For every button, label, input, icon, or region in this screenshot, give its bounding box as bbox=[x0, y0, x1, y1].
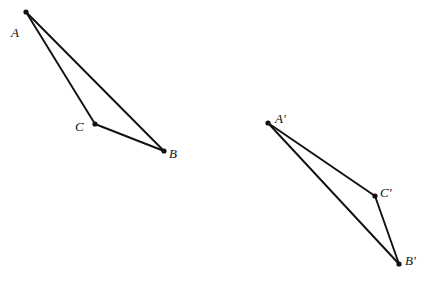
vertex-dot-a-prime bbox=[265, 120, 270, 125]
vertex-dot-b-prime bbox=[396, 261, 401, 266]
vertex-label-b: B bbox=[169, 147, 177, 160]
vertex-dots-layer bbox=[23, 9, 401, 266]
vertex-dot-c bbox=[92, 121, 97, 126]
vertex-label-c: C bbox=[75, 120, 84, 133]
edge-ab bbox=[26, 12, 164, 151]
vertex-label-b-prime: B' bbox=[405, 254, 416, 267]
geometry-figure: ABCA'B'C' bbox=[0, 0, 433, 281]
edge-b-prime-c-prime bbox=[375, 196, 399, 264]
edge-c-prime-a-prime bbox=[268, 123, 375, 196]
edge-ca bbox=[26, 12, 95, 124]
edges-layer bbox=[26, 12, 399, 264]
figure-canvas bbox=[0, 0, 433, 281]
vertex-dot-c-prime bbox=[372, 193, 377, 198]
vertex-label-c-prime: C' bbox=[380, 186, 391, 199]
vertex-label-a: A bbox=[11, 26, 19, 39]
vertex-dot-a bbox=[23, 9, 28, 14]
vertex-label-a-prime: A' bbox=[275, 112, 286, 125]
vertex-dot-b bbox=[161, 148, 166, 153]
edge-bc bbox=[95, 124, 164, 151]
